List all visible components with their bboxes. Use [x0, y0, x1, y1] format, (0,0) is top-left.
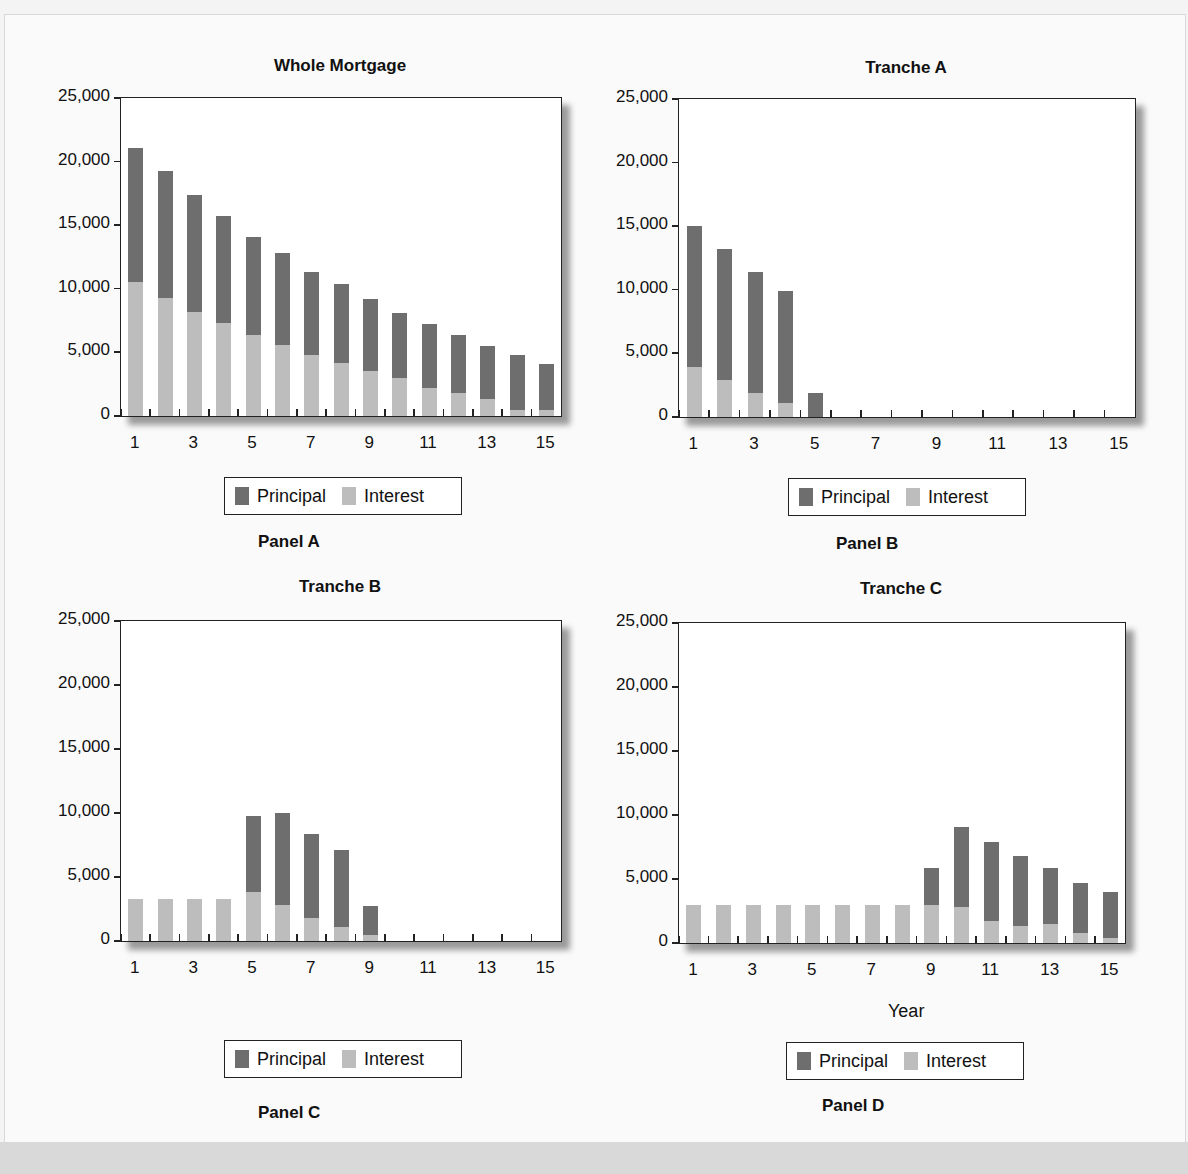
x-tick-mark — [208, 934, 210, 941]
x-tick-label: 13 — [472, 433, 502, 453]
bar-year-4 — [778, 291, 793, 417]
interest-segment — [1013, 926, 1028, 943]
x-tick-label: 3 — [178, 958, 208, 978]
y-tick-label: 25,000 — [578, 611, 668, 631]
y-tick-label: 15,000 — [20, 737, 110, 757]
x-tick-label: 11 — [413, 433, 443, 453]
bar-year-3 — [187, 195, 202, 416]
y-tick-label: 10,000 — [578, 278, 668, 298]
interest-segment — [954, 907, 969, 943]
y-tick-label: 0 — [578, 405, 668, 425]
y-tick-label: 10,000 — [20, 801, 110, 821]
x-tick-mark — [1104, 410, 1106, 417]
interest-swatch-icon — [906, 488, 920, 506]
interest-segment — [246, 335, 261, 416]
plot-area — [678, 622, 1126, 944]
bar-year-2 — [158, 899, 173, 941]
y-tick-mark — [114, 812, 120, 814]
interest-segment — [158, 298, 173, 416]
x-tick-mark — [179, 934, 181, 941]
bar-year-3 — [748, 272, 763, 417]
x-tick-mark — [1012, 410, 1014, 417]
interest-segment — [334, 927, 349, 941]
bar-year-12 — [1013, 856, 1028, 943]
principal-segment — [717, 249, 732, 380]
interest-segment — [746, 905, 761, 943]
y-tick-mark — [114, 876, 120, 878]
principal-segment — [539, 364, 554, 410]
principal-segment — [216, 216, 231, 323]
x-tick-mark — [769, 410, 771, 417]
x-tick-mark — [413, 409, 415, 416]
interest-segment — [304, 355, 319, 416]
y-tick-label: 5,000 — [20, 340, 110, 360]
principal-swatch-icon — [797, 1052, 811, 1070]
y-tick-mark — [114, 748, 120, 750]
x-tick-mark — [1035, 936, 1037, 943]
bar-year-5 — [805, 905, 820, 943]
x-tick-mark — [952, 410, 954, 417]
chart-title: Tranche A — [678, 58, 1134, 78]
x-tick-mark — [472, 934, 474, 941]
x-tick-mark — [237, 409, 239, 416]
principal-swatch-icon — [799, 488, 813, 506]
y-tick-label: 0 — [578, 931, 668, 951]
x-tick-label: 13 — [1043, 434, 1073, 454]
y-tick-label: 0 — [20, 404, 110, 424]
x-tick-label: 3 — [737, 960, 767, 980]
interest-segment — [539, 410, 554, 416]
bar-year-14 — [510, 355, 525, 416]
y-tick-mark — [114, 97, 120, 99]
principal-segment — [1103, 892, 1118, 938]
legend-label-interest: Interest — [928, 487, 988, 508]
bar-year-9 — [924, 867, 939, 943]
x-tick-mark — [797, 936, 799, 943]
x-tick-label: 9 — [354, 958, 384, 978]
x-tick-mark — [531, 934, 533, 941]
interest-segment — [275, 905, 290, 941]
interest-swatch-icon — [342, 487, 356, 505]
x-tick-mark — [739, 410, 741, 417]
interest-segment — [776, 905, 791, 943]
interest-segment — [304, 918, 319, 941]
x-tick-label: 7 — [861, 434, 891, 454]
interest-segment — [865, 905, 880, 943]
principal-segment — [304, 834, 319, 918]
legend-item-interest: Interest — [906, 487, 988, 508]
y-tick-mark — [672, 352, 678, 354]
x-tick-label: 13 — [1035, 960, 1065, 980]
x-tick-mark — [975, 936, 977, 943]
x-tick-label: 1 — [678, 960, 708, 980]
bar-year-8 — [334, 850, 349, 941]
x-tick-label: 5 — [797, 960, 827, 980]
x-tick-label: 3 — [739, 434, 769, 454]
x-tick-mark — [120, 934, 122, 941]
principal-swatch-icon — [235, 1050, 249, 1068]
x-tick-label: 9 — [354, 433, 384, 453]
interest-segment — [686, 905, 701, 943]
x-tick-label: 9 — [916, 960, 946, 980]
x-tick-label: 11 — [975, 960, 1005, 980]
x-tick-mark — [737, 936, 739, 943]
x-tick-mark — [120, 409, 122, 416]
interest-segment — [895, 905, 910, 943]
x-tick-label: 1 — [120, 433, 150, 453]
x-tick-mark — [443, 934, 445, 941]
principal-segment — [246, 237, 261, 335]
bar-year-3 — [187, 899, 202, 941]
legend-label-interest: Interest — [926, 1051, 986, 1072]
interest-segment — [924, 905, 939, 943]
principal-segment — [304, 272, 319, 355]
y-tick-label: 15,000 — [578, 739, 668, 759]
interest-segment — [510, 410, 525, 416]
bar-year-12 — [451, 335, 466, 416]
bar-year-6 — [275, 813, 290, 941]
y-tick-label: 25,000 — [578, 87, 668, 107]
bar-year-14 — [1073, 883, 1088, 943]
x-tick-label: 15 — [1104, 434, 1134, 454]
legend-label-principal: Principal — [257, 1049, 326, 1070]
principal-segment — [334, 850, 349, 927]
x-tick-mark — [413, 934, 415, 941]
x-tick-mark — [916, 936, 918, 943]
legend-label-interest: Interest — [364, 1049, 424, 1070]
